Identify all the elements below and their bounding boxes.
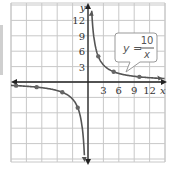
data-point (137, 75, 141, 79)
x-axis-label: x (160, 85, 166, 96)
data-point (34, 85, 38, 89)
svg-text:10: 10 (141, 35, 154, 46)
y-tick-label: 12 (72, 15, 85, 26)
x-tick-label: 3 (100, 85, 106, 96)
y-tick-label: 3 (79, 62, 85, 73)
data-point (60, 90, 64, 94)
svg-text:x: x (143, 49, 150, 60)
x-tick-label: 6 (116, 85, 122, 96)
x-tick-label: 9 (131, 85, 137, 96)
y-axis-label: y (79, 2, 86, 13)
y-arrow-icon (85, 3, 91, 9)
data-point (76, 105, 80, 109)
data-point (14, 83, 18, 87)
axes (11, 3, 167, 165)
data-point (111, 70, 115, 74)
y-tick-label: 6 (79, 46, 85, 57)
curve-negative-branch (11, 85, 84, 155)
data-point (96, 54, 100, 58)
x-tick-label: 12 (143, 85, 156, 96)
y-tick-label: 9 (79, 31, 85, 42)
hyperbola-graph: 3691236912xy y =10x (0, 0, 174, 177)
svg-text:y =: y = (122, 42, 142, 55)
